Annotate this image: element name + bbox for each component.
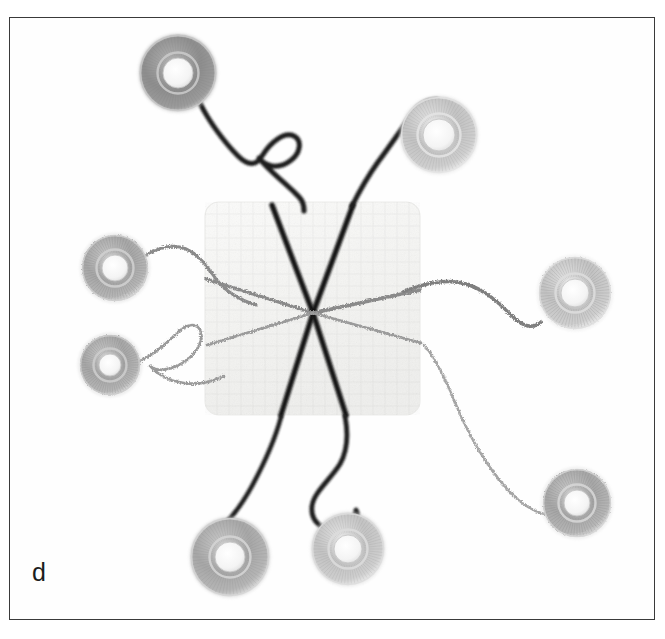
photograph-canvas <box>0 0 665 639</box>
spool-left-upper-hole <box>102 255 128 281</box>
spool-right-hole <box>561 279 589 307</box>
spool-top-right <box>399 95 480 176</box>
panel-label: d <box>32 560 46 585</box>
spool-bottom-right <box>541 467 614 540</box>
thread-bottom-right-braided <box>424 345 545 514</box>
thread-upper-left-dark <box>200 103 304 211</box>
spool-bottom-right-hole <box>564 490 590 516</box>
spool-top-left-hole <box>163 58 193 88</box>
thread-right-braided <box>404 282 541 327</box>
spool-left-lower-hole <box>99 354 121 376</box>
spool-bottom-center <box>310 511 387 588</box>
spool-left-upper <box>80 233 151 304</box>
thread-bottom-right-braided-fuzz <box>424 345 545 514</box>
thread-right-braided-fuzz <box>404 282 541 327</box>
spool-top-left <box>138 33 219 114</box>
spool-bottom-left-hole <box>215 542 245 572</box>
figure-panel: d <box>0 0 665 639</box>
spool-bottom-center-hole <box>334 535 362 563</box>
spool-left-lower <box>78 333 143 398</box>
spool-right <box>537 255 614 332</box>
spool-top-right-hole <box>423 119 455 151</box>
spool-bottom-left <box>189 516 272 599</box>
